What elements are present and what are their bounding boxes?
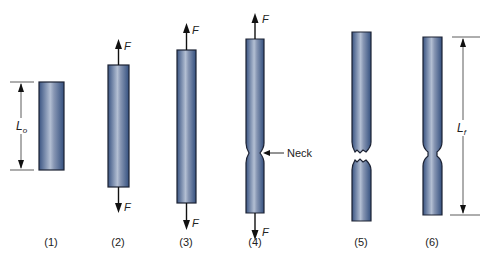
stage-label-6: (6)	[425, 236, 438, 248]
stage-label-1: (1)	[44, 236, 57, 248]
original-length-label: Lo	[16, 119, 27, 135]
force-label-3-top: F	[192, 24, 199, 36]
specimen-2	[108, 39, 129, 213]
specimen-5	[352, 32, 371, 221]
stage-label-5: (5)	[354, 236, 367, 248]
tensile-test-diagram	[0, 0, 492, 274]
stage-label-3: (3)	[179, 236, 192, 248]
original-length-symbol: L	[16, 119, 23, 133]
force-label-3-bottom: F	[192, 217, 199, 229]
final-length-label: Lf	[457, 121, 466, 137]
neck-label: Neck	[287, 147, 312, 159]
specimen-4	[246, 13, 284, 240]
force-label-2-bottom: F	[124, 201, 131, 213]
stage-label-4: (4)	[248, 236, 261, 248]
force-label-2-top: F	[124, 40, 131, 52]
stage-label-2: (2)	[111, 236, 124, 248]
force-label-4-top: F	[262, 13, 269, 25]
final-length-symbol: L	[457, 121, 464, 135]
final-length-subscript: f	[464, 128, 466, 137]
force-label-4-bottom: F	[262, 226, 269, 238]
original-length-subscript: o	[23, 126, 27, 135]
specimen-3	[177, 23, 196, 230]
specimen-6	[423, 37, 480, 215]
